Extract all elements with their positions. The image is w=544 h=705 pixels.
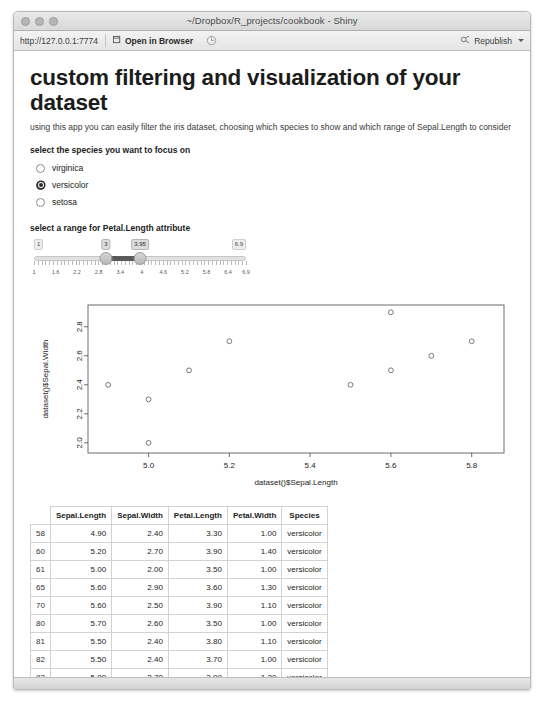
toolbar-divider [105, 34, 106, 47]
app-content: custom filtering and visualization of yo… [14, 51, 530, 689]
table-header-row: Sepal.LengthSepal.WidthPetal.LengthPetal… [31, 506, 328, 524]
republish-button[interactable]: Republish [460, 35, 524, 46]
slider-tick [117, 261, 118, 265]
cell-petal-length: 3.60 [168, 578, 227, 596]
cell-petal-width: 1.00 [227, 614, 281, 632]
cell-sepal-width: 2.40 [112, 650, 169, 668]
scatter-point [146, 440, 151, 445]
slider-tick-label: 6.4 [224, 269, 232, 275]
slider-tick [64, 261, 65, 265]
table-header-cell: Species [282, 506, 327, 524]
caret-down-icon[interactable] [518, 39, 524, 42]
slider-tick [167, 261, 168, 265]
slider-tick [45, 261, 46, 265]
species-input-label: select the species you want to focus on [30, 145, 514, 155]
reload-icon [206, 35, 217, 46]
table-row: 705.602.503.901.10versicolor [31, 596, 328, 614]
x-axis-tick-label: 5.4 [305, 461, 317, 470]
cell-sepal-length: 5.50 [50, 632, 111, 650]
slider-max-label: 6.9 [232, 239, 246, 250]
slider-tick [223, 261, 224, 265]
slider-tick [216, 261, 217, 265]
radio-label: virginica [52, 163, 83, 173]
cell-petal-width: 1.00 [227, 524, 281, 542]
y-axis-label: dataset()$Sepal.Width [41, 339, 50, 418]
range-slider[interactable]: 1 6.9 11.62.22.83.444.65.25.86.46.9 3 3.… [34, 239, 246, 279]
window-statusbar [14, 677, 530, 689]
x-axis-tick-label: 5.0 [143, 461, 155, 470]
table-row: 615.002.003.501.00versicolor [31, 560, 328, 578]
species-radio-group[interactable]: virginica versicolor setosa [30, 161, 514, 210]
row-index: 60 [31, 542, 51, 560]
slider-tick [170, 261, 171, 265]
petal-length-range-block: select a range for Petal.Length attribut… [30, 223, 514, 279]
scatter-point [429, 353, 434, 358]
cell-sepal-length: 5.50 [50, 650, 111, 668]
slider-handle-high[interactable] [134, 252, 147, 265]
cell-sepal-width: 2.70 [112, 542, 169, 560]
slider-tick [83, 261, 84, 265]
radio-label: versicolor [52, 180, 88, 190]
page-subtitle: using this app you can easily filter the… [30, 122, 514, 132]
cell-sepal-length: 5.60 [50, 596, 111, 614]
radio-option-setosa[interactable]: setosa [30, 195, 514, 210]
table-row: 655.602.903.601.30versicolor [31, 578, 328, 596]
slider-tick-label: 3.4 [116, 269, 124, 275]
table-row: 815.502.403.801.10versicolor [31, 632, 328, 650]
y-axis-tick-label: 2.0 [75, 436, 84, 448]
slider-tick [174, 261, 175, 265]
slider-handle-low[interactable] [99, 252, 112, 265]
cell-sepal-width: 2.50 [112, 596, 169, 614]
table-header-cell: Sepal.Length [50, 506, 111, 524]
scatter-point [348, 382, 353, 387]
cell-sepal-length: 4.90 [50, 524, 111, 542]
radio-option-virginica[interactable]: virginica [30, 161, 514, 176]
table-header-index [31, 506, 51, 524]
scatter-plot: 2.02.22.42.62.85.05.25.45.65.8dataset()$… [30, 295, 514, 500]
cell-sepal-length: 5.70 [50, 614, 111, 632]
slider-tick [148, 261, 149, 265]
slider-tick-label: 5.8 [203, 269, 211, 275]
slider-tick [53, 261, 54, 265]
republish-label: Republish [474, 36, 512, 46]
scatter-point [106, 382, 111, 387]
slider-tick [189, 261, 190, 265]
radio-option-versicolor[interactable]: versicolor [30, 178, 514, 193]
radio-icon-selected [36, 181, 45, 190]
table-row: 805.702.603.501.00versicolor [31, 614, 328, 632]
cell-species: versicolor [282, 524, 327, 542]
x-axis-tick-label: 5.2 [224, 461, 236, 470]
cell-species: versicolor [282, 542, 327, 560]
cell-species: versicolor [282, 596, 327, 614]
slider-tick-label: 1 [32, 269, 35, 275]
scatter-point [389, 309, 394, 314]
app-window: ~/Dropbox/R_projects/cookbook - Shiny ht… [13, 11, 531, 690]
slider-tick [242, 261, 243, 265]
address-label[interactable]: http://127.0.0.1:7774 [20, 36, 105, 46]
cell-sepal-length: 5.60 [50, 578, 111, 596]
table-row: 825.502.403.701.00versicolor [31, 650, 328, 668]
cell-petal-length: 3.30 [168, 524, 227, 542]
table-row: 605.202.703.901.40versicolor [31, 542, 328, 560]
scatter-point [146, 396, 151, 401]
open-in-browser-button[interactable]: Open in Browser [113, 35, 193, 46]
slider-tick [95, 261, 96, 265]
slider-tick [68, 261, 69, 265]
page-title: custom filtering and visualization of yo… [30, 66, 514, 116]
cell-petal-length: 3.80 [168, 632, 227, 650]
y-axis-tick-label: 2.6 [75, 349, 84, 361]
row-index: 81 [31, 632, 51, 650]
slider-min-label: 1 [34, 239, 43, 250]
scatter-point [227, 338, 232, 343]
reload-button[interactable] [205, 35, 217, 47]
cell-petal-length: 3.50 [168, 560, 227, 578]
slider-tick [87, 261, 88, 265]
slider-tick [121, 261, 122, 265]
slider-tick [201, 261, 202, 265]
window-titlebar[interactable]: ~/Dropbox/R_projects/cookbook - Shiny [14, 12, 530, 31]
slider-tick-label: 6.9 [242, 269, 250, 275]
table-header-cell: Sepal.Width [112, 506, 169, 524]
table-row: 584.902.403.301.00versicolor [31, 524, 328, 542]
slider-tick [235, 261, 236, 265]
row-index: 80 [31, 614, 51, 632]
